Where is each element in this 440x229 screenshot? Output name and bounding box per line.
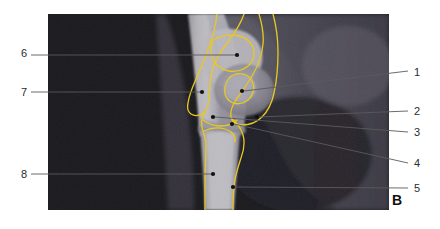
label-4: 4: [414, 158, 420, 169]
label-8: 8: [21, 169, 27, 180]
mri-scan-render: [48, 14, 389, 210]
label-2: 2: [414, 106, 420, 117]
label-1: 1: [414, 67, 420, 78]
figure-panel: 12345678 B: [0, 0, 440, 229]
label-5: 5: [414, 183, 420, 194]
label-7: 7: [21, 87, 27, 98]
label-3: 3: [414, 127, 420, 138]
label-6: 6: [21, 48, 27, 59]
mri-scan-image: [48, 14, 389, 210]
panel-letter: B: [392, 193, 402, 207]
